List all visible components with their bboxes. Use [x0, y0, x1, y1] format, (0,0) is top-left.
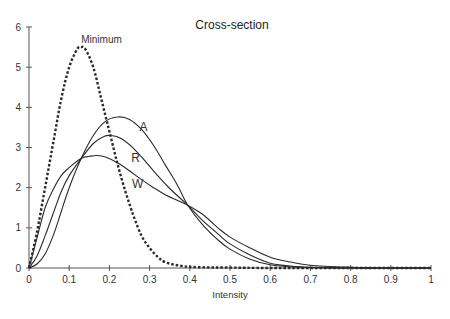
series-line-r	[29, 135, 431, 268]
x-tick-label: 0.8	[344, 274, 358, 285]
y-tick-label: 1	[15, 222, 21, 233]
series-group	[29, 47, 431, 268]
x-tick-label: 0.2	[102, 274, 116, 285]
y-tick-label: 4	[15, 102, 21, 113]
series-line-w	[29, 155, 431, 268]
label-minimum: Minimum	[81, 34, 122, 45]
y-tick-label: 6	[15, 22, 21, 33]
x-tick-label: 1	[428, 274, 434, 285]
annotation-labels: MinimumARW	[81, 34, 147, 191]
y-tick-label: 5	[15, 62, 21, 73]
x-tick-label: 0.5	[223, 274, 237, 285]
label-r: R	[131, 151, 140, 165]
x-tick-label: 0.6	[263, 274, 277, 285]
x-tick-label: 0.1	[62, 274, 76, 285]
x-tick-label: 0.4	[183, 274, 197, 285]
chart-title: Cross-section	[195, 18, 268, 32]
x-tick-label: 0.3	[143, 274, 157, 285]
x-tick-label: 0.9	[384, 274, 398, 285]
y-tick-label: 2	[15, 182, 21, 193]
label-w: W	[132, 177, 144, 191]
y-tick-label: 3	[15, 142, 21, 153]
label-a: A	[140, 120, 148, 134]
y-tick-label: 0	[15, 263, 21, 274]
series-line-a	[29, 117, 431, 268]
chart: Cross-section 012345600.10.20.30.40.50.6…	[0, 0, 450, 319]
series-line-minimum	[29, 47, 431, 268]
x-tick-label: 0	[26, 274, 32, 285]
x-tick-label: 0.7	[303, 274, 317, 285]
x-axis-title: Intensity	[212, 289, 248, 300]
